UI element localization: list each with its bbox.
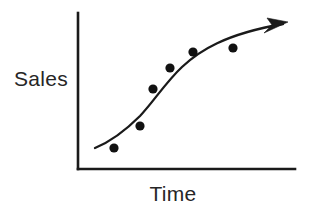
x-axis-label: Time [149, 182, 196, 205]
trend-arrowhead-icon [264, 18, 288, 33]
data-point [228, 43, 237, 52]
trend-curve [95, 24, 283, 148]
chart-canvas: Sales Time [0, 0, 309, 212]
scatter-points-group [109, 43, 237, 152]
sales-trend-figure: Sales Time [0, 0, 309, 212]
data-point [165, 63, 174, 72]
y-axis-label: Sales [14, 67, 68, 90]
data-point [148, 84, 157, 93]
data-point [135, 121, 144, 130]
trend-line-group [95, 18, 288, 148]
data-point [188, 47, 197, 56]
data-point [109, 143, 118, 152]
